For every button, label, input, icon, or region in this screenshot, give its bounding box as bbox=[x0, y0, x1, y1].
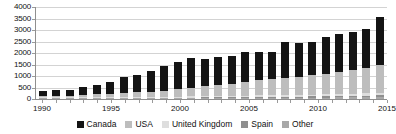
bar-segment-canada bbox=[295, 43, 303, 77]
bar-segment-usa bbox=[214, 85, 222, 96]
plot-wrapper: 40003500300025002000150010005000 1990199… bbox=[0, 0, 390, 104]
bar-segment-other bbox=[160, 98, 168, 99]
x-tick-mark bbox=[249, 100, 250, 103]
bar-segment-canada bbox=[349, 32, 357, 71]
x-tick-mark bbox=[194, 100, 195, 103]
bar-segment-other bbox=[52, 98, 60, 99]
x-tick-mark bbox=[125, 100, 126, 103]
bar-segment-other bbox=[349, 97, 357, 99]
bar-segment-other bbox=[228, 98, 236, 99]
bar-2005[interactable] bbox=[241, 52, 249, 99]
bar-segment-other bbox=[201, 98, 209, 99]
bar-segment-other bbox=[147, 98, 155, 99]
bar-segment-usa bbox=[376, 65, 384, 93]
bar-segment-canada bbox=[133, 75, 141, 92]
bar-segment-other bbox=[295, 98, 303, 99]
bar-segment-usa bbox=[295, 77, 303, 95]
bar-segment-canada bbox=[335, 34, 343, 72]
bar-2011[interactable] bbox=[322, 37, 330, 99]
bar-1999[interactable] bbox=[160, 66, 168, 99]
bar-segment-other bbox=[308, 98, 316, 99]
bar-2002[interactable] bbox=[201, 59, 209, 99]
bar-segment-usa bbox=[201, 86, 209, 96]
legend-item-canada[interactable]: Canada bbox=[77, 120, 117, 129]
legend-item-spain[interactable]: Spain bbox=[241, 120, 273, 129]
bar-segment-other bbox=[281, 98, 289, 99]
legend-swatch-icon bbox=[125, 121, 132, 128]
x-axis-label: 1995 bbox=[102, 104, 120, 113]
bar-2012[interactable] bbox=[335, 34, 343, 99]
bar-1996[interactable] bbox=[120, 77, 128, 99]
y-tick-mark bbox=[32, 76, 35, 77]
x-tick-mark bbox=[359, 100, 360, 103]
x-tick-mark bbox=[180, 100, 181, 103]
bar-segment-other bbox=[93, 98, 101, 99]
x-tick-mark bbox=[304, 100, 305, 103]
bar-2001[interactable] bbox=[187, 58, 195, 99]
legend-item-other[interactable]: Other bbox=[282, 120, 313, 129]
legend-label: United Kingdom bbox=[172, 120, 232, 129]
x-tick-mark bbox=[235, 100, 236, 103]
bar-segment-canada bbox=[362, 29, 370, 69]
bar-1998[interactable] bbox=[147, 71, 155, 99]
y-tick-mark bbox=[32, 42, 35, 43]
x-axis-label: 2005 bbox=[240, 104, 258, 113]
y-axis: 40003500300025002000150010005000 bbox=[0, 0, 31, 104]
y-tick-mark bbox=[32, 99, 35, 100]
x-tick-mark bbox=[56, 100, 57, 103]
bar-segment-canada bbox=[147, 71, 155, 92]
legend-swatch-icon bbox=[162, 121, 169, 128]
bar-segment-usa bbox=[241, 82, 249, 96]
x-tick-mark bbox=[263, 100, 264, 103]
legend-label: Spain bbox=[251, 120, 273, 129]
bar-1990[interactable] bbox=[39, 91, 47, 99]
bar-1993[interactable] bbox=[79, 87, 87, 99]
bar-group bbox=[36, 7, 387, 99]
y-tick-mark bbox=[32, 30, 35, 31]
bar-2000[interactable] bbox=[174, 62, 182, 99]
bar-segment-canada bbox=[241, 52, 249, 81]
bar-segment-usa bbox=[335, 72, 343, 94]
bar-segment-canada bbox=[79, 87, 87, 95]
bar-segment-usa bbox=[308, 75, 316, 94]
x-tick-mark bbox=[208, 100, 209, 103]
y-tick-mark bbox=[32, 53, 35, 54]
bar-segment-usa bbox=[281, 78, 289, 95]
bar-2006[interactable] bbox=[255, 52, 263, 99]
bar-2014[interactable] bbox=[362, 29, 370, 99]
x-axis-labels: 199019952000200520102015 bbox=[0, 104, 390, 116]
bar-2015[interactable] bbox=[376, 17, 384, 99]
bar-1991[interactable] bbox=[52, 90, 60, 99]
x-tick-mark bbox=[152, 100, 153, 103]
y-tick-label: 500 bbox=[0, 84, 31, 92]
x-tick-mark bbox=[97, 100, 98, 103]
bar-segment-other bbox=[39, 98, 47, 99]
bar-segment-canada bbox=[106, 82, 114, 94]
bar-2008[interactable] bbox=[281, 42, 289, 99]
bar-1995[interactable] bbox=[106, 82, 114, 99]
bar-segment-other bbox=[133, 98, 141, 99]
legend-label: Canada bbox=[87, 120, 117, 129]
y-tick-label: 2500 bbox=[0, 38, 31, 46]
y-tick-mark bbox=[32, 7, 35, 8]
bar-1992[interactable] bbox=[66, 90, 74, 99]
bar-segment-usa bbox=[268, 79, 276, 95]
bar-segment-canada bbox=[187, 58, 195, 88]
bar-1994[interactable] bbox=[93, 85, 101, 99]
bar-segment-other bbox=[241, 98, 249, 99]
x-tick-mark bbox=[387, 100, 388, 103]
bar-segment-canada bbox=[120, 77, 128, 93]
bar-2013[interactable] bbox=[349, 32, 357, 99]
bar-segment-other bbox=[106, 98, 114, 99]
bar-2003[interactable] bbox=[214, 57, 222, 99]
bar-1997[interactable] bbox=[133, 75, 141, 99]
bar-segment-canada bbox=[268, 52, 276, 80]
bar-2004[interactable] bbox=[228, 56, 236, 99]
bar-2009[interactable] bbox=[295, 43, 303, 99]
legend-item-usa[interactable]: USA bbox=[125, 120, 152, 129]
bar-segment-other bbox=[268, 98, 276, 99]
bar-segment-usa bbox=[228, 84, 236, 96]
legend-item-united-kingdom[interactable]: United Kingdom bbox=[162, 120, 232, 129]
bar-2010[interactable] bbox=[308, 42, 316, 99]
bar-2007[interactable] bbox=[268, 52, 276, 99]
